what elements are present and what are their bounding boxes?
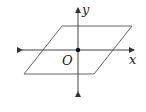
origin-point — [76, 48, 80, 52]
coordinate-plane-diagram: y O x — [0, 0, 146, 112]
x-axis-label: x — [129, 52, 137, 67]
origin-label: O — [62, 53, 73, 68]
y-axis-label: y — [81, 2, 90, 17]
